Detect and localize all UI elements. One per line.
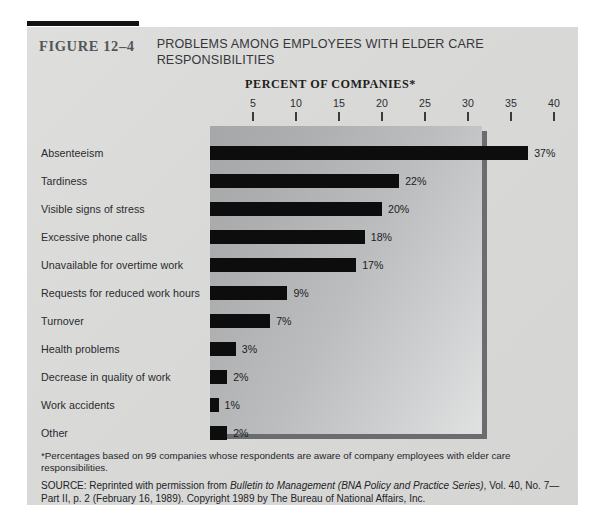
x-axis-tick-mark bbox=[510, 112, 512, 121]
category-label: Unavailable for overtime work bbox=[41, 259, 207, 271]
chart-bar bbox=[210, 342, 236, 356]
chart-bar bbox=[210, 398, 219, 412]
category-label: Work accidents bbox=[41, 399, 207, 411]
chart-row: Health problems3% bbox=[27, 335, 578, 363]
x-axis-tick: 40 bbox=[539, 97, 569, 121]
x-axis-tick-label: 10 bbox=[281, 97, 311, 109]
chart-row: Work accidents1% bbox=[27, 391, 578, 419]
x-axis-tick: 35 bbox=[496, 97, 526, 121]
chart-bar bbox=[210, 258, 356, 272]
source-publication-title: Bulletin to Management (BNA Policy and P… bbox=[230, 480, 484, 491]
category-label: Decrease in quality of work bbox=[41, 371, 207, 383]
x-axis-tick-label: 30 bbox=[453, 97, 483, 109]
bar-value-label: 3% bbox=[242, 343, 257, 355]
category-label: Absenteeism bbox=[41, 147, 207, 159]
x-axis-tick: 10 bbox=[281, 97, 311, 121]
x-axis-tick-mark bbox=[467, 112, 469, 121]
chart-rows: Absenteeism37%Tardiness22%Visible signs … bbox=[27, 126, 578, 434]
chart-bar bbox=[210, 370, 227, 384]
bar-value-label: 2% bbox=[233, 371, 248, 383]
chart-bar bbox=[210, 230, 365, 244]
x-axis-tick-label: 25 bbox=[410, 97, 440, 109]
x-axis-tick: 5 bbox=[238, 97, 268, 121]
figure-number: FIGURE 12–4 bbox=[39, 37, 135, 55]
source-text: SOURCE: Reprinted with permission from B… bbox=[41, 479, 563, 505]
figure-heading: FIGURE 12–4 PROBLEMS AMONG EMPLOYEES WIT… bbox=[39, 37, 568, 68]
top-rule-decoration bbox=[27, 21, 139, 26]
x-axis-tick: 30 bbox=[453, 97, 483, 121]
bar-value-label: 22% bbox=[405, 175, 426, 187]
x-axis-tick-mark bbox=[295, 112, 297, 121]
bar-value-label: 37% bbox=[534, 147, 555, 159]
x-axis-tick-mark bbox=[338, 112, 340, 121]
x-axis-tick: 25 bbox=[410, 97, 440, 121]
x-axis-tick-mark bbox=[252, 112, 254, 121]
chart-axis-title: PERCENT OF COMPANIES* bbox=[27, 77, 578, 92]
chart-bar bbox=[210, 146, 528, 160]
x-axis-tick-mark bbox=[424, 112, 426, 121]
category-label: Tardiness bbox=[41, 175, 207, 187]
x-axis-tick: 15 bbox=[324, 97, 354, 121]
x-axis-tick: 20 bbox=[367, 97, 397, 121]
bar-value-label: 1% bbox=[225, 399, 240, 411]
chart-bar bbox=[210, 314, 270, 328]
chart-row: Tardiness22% bbox=[27, 167, 578, 195]
x-axis-tick-label: 40 bbox=[539, 97, 569, 109]
chart-row: Absenteeism37% bbox=[27, 139, 578, 167]
chart-bar bbox=[210, 174, 399, 188]
bar-value-label: 20% bbox=[388, 203, 409, 215]
category-label: Other bbox=[41, 427, 207, 439]
chart-row: Other2% bbox=[27, 419, 578, 447]
chart-row: Turnover7% bbox=[27, 307, 578, 335]
x-axis-tick-mark bbox=[381, 112, 383, 121]
category-label: Turnover bbox=[41, 315, 207, 327]
category-label: Excessive phone calls bbox=[41, 231, 207, 243]
x-axis-tick-label: 20 bbox=[367, 97, 397, 109]
category-label: Visible signs of stress bbox=[41, 203, 207, 215]
category-label: Requests for reduced work hours bbox=[41, 287, 207, 299]
figure-container: FIGURE 12–4 PROBLEMS AMONG EMPLOYEES WIT… bbox=[27, 27, 578, 505]
bar-value-label: 2% bbox=[233, 427, 248, 439]
x-axis-ticks: 510152025303540 bbox=[27, 97, 578, 123]
x-axis-tick-label: 15 bbox=[324, 97, 354, 109]
figure-title: PROBLEMS AMONG EMPLOYEES WITH ELDER CARE… bbox=[157, 37, 527, 68]
chart-bar bbox=[210, 202, 382, 216]
chart-row: Visible signs of stress20% bbox=[27, 195, 578, 223]
chart-row: Excessive phone calls18% bbox=[27, 223, 578, 251]
chart-row: Requests for reduced work hours9% bbox=[27, 279, 578, 307]
x-axis-tick-label: 35 bbox=[496, 97, 526, 109]
chart-row: Unavailable for overtime work17% bbox=[27, 251, 578, 279]
x-axis-tick-mark bbox=[553, 112, 555, 121]
bar-value-label: 18% bbox=[371, 231, 392, 243]
chart-row: Decrease in quality of work2% bbox=[27, 363, 578, 391]
footnote-text: *Percentages based on 99 companies whose… bbox=[41, 450, 556, 475]
bar-value-label: 17% bbox=[362, 259, 383, 271]
bar-value-label: 7% bbox=[276, 315, 291, 327]
chart-bar bbox=[210, 286, 287, 300]
x-axis-tick-label: 5 bbox=[238, 97, 268, 109]
bar-value-label: 9% bbox=[293, 287, 308, 299]
category-label: Health problems bbox=[41, 343, 207, 355]
chart-bar bbox=[210, 426, 227, 440]
